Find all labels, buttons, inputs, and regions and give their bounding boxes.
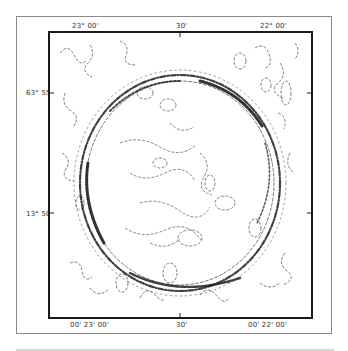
bottom-axis-label-1: 00' 23' 00' — [70, 321, 109, 329]
top-axis-label-2: 30' — [176, 22, 187, 30]
bottom-axis-label-3: 00' 22' 00' — [248, 321, 287, 329]
top-axis-label-3: 22° 00' — [260, 22, 287, 30]
contour-map-graphic — [50, 33, 311, 317]
top-axis-label-1: 23° 00' — [72, 22, 99, 30]
contour-map — [48, 31, 313, 319]
bottom-axis-label-2: 30' — [176, 321, 187, 329]
